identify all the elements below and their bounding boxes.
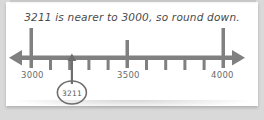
axis-left-arrowhead xyxy=(9,50,22,66)
minor-tick-3600 xyxy=(145,58,148,70)
minor-tick-3900 xyxy=(203,58,206,70)
minor-tick-3400 xyxy=(107,58,110,70)
marked-value-label: 3211 xyxy=(57,82,87,104)
number-line-graphic xyxy=(0,0,264,120)
axis-label-end: 4000 xyxy=(211,70,234,80)
major-tick-3000 xyxy=(30,28,34,68)
axis-label-mid: 3500 xyxy=(117,70,140,80)
callout-pointer-stem xyxy=(71,58,73,84)
minor-tick-3700 xyxy=(164,58,167,70)
axis-label-start: 3000 xyxy=(21,70,44,80)
major-tick-3500 xyxy=(126,40,130,68)
minor-tick-3100 xyxy=(49,58,52,70)
axis-right-arrowhead xyxy=(232,50,245,66)
worksheet-page: 3211 is nearer to 3000, so round down. 3… xyxy=(0,0,264,120)
minor-tick-3300 xyxy=(87,58,90,70)
minor-tick-3800 xyxy=(183,58,186,70)
major-tick-4000 xyxy=(222,28,226,68)
